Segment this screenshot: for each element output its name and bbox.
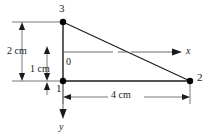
dimension-arrowhead-4cm-right	[182, 94, 190, 100]
dimension-node1-tick	[44, 82, 50, 95]
y-axis-label: y	[59, 122, 63, 132]
node-label-2: 2	[197, 72, 203, 83]
dimension-label-2cm: 2 cm	[7, 46, 27, 56]
y-axis-arrowhead	[59, 109, 66, 119]
node1-tick-arrowhead	[44, 82, 50, 90]
dimension-arrowhead-1cm-down	[44, 73, 50, 81]
dimension-label-1cm: 1 cm	[30, 64, 50, 74]
x-axis-label: x	[186, 46, 190, 56]
x-axis-arrowhead	[172, 48, 182, 55]
dimension-label-4cm: 4 cm	[111, 90, 131, 100]
node-dot-2	[187, 78, 193, 84]
triangle-element-figure: 3 1 2 0 x y 2 cm 1 cm 4 cm	[0, 0, 215, 138]
dimension-arrowhead-2cm-down	[19, 73, 25, 81]
node-label-1: 1	[56, 83, 62, 94]
coordinate-axes	[59, 48, 182, 119]
dimension-arrowhead-1cm-up	[44, 46, 50, 54]
dimension-arrowhead-4cm-left	[63, 94, 71, 100]
node-dot-3	[60, 19, 66, 25]
dimension-arrowhead-2cm-up	[19, 22, 25, 30]
node-label-3: 3	[59, 3, 65, 14]
origin-label: 0	[66, 57, 71, 67]
